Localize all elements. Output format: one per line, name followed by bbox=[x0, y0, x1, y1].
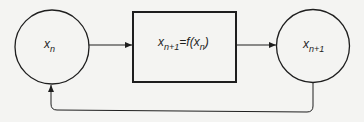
diagram-canvas bbox=[0, 0, 364, 122]
output-subscript: n+1 bbox=[309, 44, 324, 54]
iteration-diagram: xn xn+1=f(xn) xn+1 bbox=[0, 0, 364, 122]
feedback-arrow bbox=[51, 83, 313, 112]
function-equation: xn+1=f(xn) bbox=[158, 36, 209, 52]
eq-close-paren: ) bbox=[205, 35, 209, 49]
input-node-label: xn bbox=[44, 38, 55, 54]
eq-func: f( bbox=[186, 35, 193, 49]
output-node-label: xn+1 bbox=[303, 38, 324, 54]
eq-lhs-subscript: n+1 bbox=[164, 42, 179, 52]
input-subscript: n bbox=[50, 44, 55, 54]
